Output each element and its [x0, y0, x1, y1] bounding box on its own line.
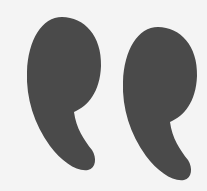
left-quote-mark	[27, 17, 101, 170]
quotation-mark-graphic	[0, 0, 207, 191]
right-quote-mark	[123, 27, 197, 180]
quote-icon	[0, 0, 207, 191]
